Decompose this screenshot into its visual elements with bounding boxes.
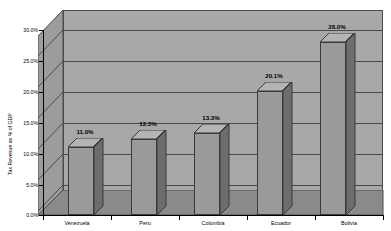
y-tick-label-0: 0.0% [4, 212, 38, 218]
bar-side-face [220, 124, 229, 215]
y-tick-label-10: 10.0% [4, 151, 38, 157]
bar-front-face [320, 42, 346, 215]
data-label-colombia: 13.3% [189, 114, 233, 121]
bar-ecuador[interactable] [257, 82, 292, 215]
data-label-ecuador: 20.1% [252, 72, 296, 79]
gridline-left-30 [38, 30, 64, 56]
bar-side-face [157, 130, 166, 215]
gridline-left-15 [38, 123, 64, 149]
y-tick-label-25: 25.0% [4, 58, 38, 64]
bar-front-face [68, 147, 94, 215]
x-tick-label-colombia: Colombia [180, 220, 246, 226]
y-tick-label-20: 20.0% [4, 89, 38, 95]
x-tick-label-venezuela: Venezuela [44, 220, 110, 226]
x-axis-line [43, 215, 384, 216]
x-tick-label-bolivia: Bolivia [316, 220, 382, 226]
data-label-bolivia: 28.0% [315, 23, 359, 30]
y-tick-label-5: 5.0% [4, 182, 38, 188]
gridline-left-10 [38, 154, 64, 180]
y-axis-line [43, 30, 44, 216]
gridline-left-20 [38, 92, 64, 118]
gridline-30 [63, 30, 383, 31]
chart-container: Tax Revenue as % of GDP 30.0% 25.0% 20.0… [0, 0, 391, 231]
y-tick-label-15: 15.0% [4, 120, 38, 126]
bar-front-face [131, 139, 157, 215]
bar-side-face [346, 33, 355, 215]
x-tick-label-peru: Peru [112, 220, 178, 226]
bar-peru[interactable] [131, 130, 166, 215]
gridline-left-5 [38, 185, 64, 211]
x-tick-label-ecuador: Ecuador [248, 220, 314, 226]
bar-side-face [283, 82, 292, 215]
bar-bolivia[interactable] [320, 33, 355, 215]
gridline-left-25 [38, 61, 64, 87]
x-tick-mark-5 [383, 216, 384, 220]
bar-front-face [257, 91, 283, 215]
data-label-peru: 12.3% [126, 120, 170, 127]
data-label-venezuela: 11.0% [63, 128, 107, 135]
bar-side-face [94, 138, 103, 215]
bar-venezuela[interactable] [68, 138, 103, 215]
y-tick-label-30: 30.0% [4, 27, 38, 33]
bar-colombia[interactable] [194, 124, 229, 215]
bar-front-face [194, 133, 220, 215]
